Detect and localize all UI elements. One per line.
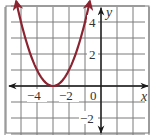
x-tick-label-neg2: −2	[59, 88, 73, 103]
y-tick-label-4: 4	[89, 15, 96, 30]
y-axis-label: y	[104, 5, 113, 20]
y-tick-label-neg2: −2	[80, 111, 94, 126]
parabola-graph: −4 −2 0 4 2 −2 x y	[0, 0, 156, 140]
x-tick-label-neg4: −4	[27, 88, 41, 103]
grid-lines	[5, 6, 149, 135]
y-tick-label-2: 2	[89, 47, 96, 62]
origin-label: 0	[90, 88, 97, 103]
x-axis-label: x	[140, 89, 148, 104]
